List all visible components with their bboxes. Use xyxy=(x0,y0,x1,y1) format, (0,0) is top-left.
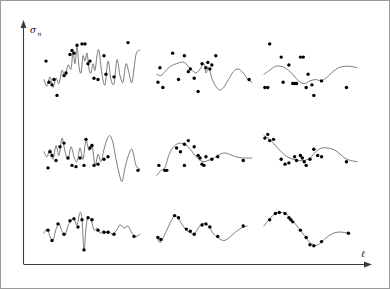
data-point xyxy=(80,42,83,45)
data-point xyxy=(291,220,294,223)
data-point xyxy=(175,146,178,149)
data-point xyxy=(44,59,47,62)
data-point xyxy=(208,67,211,70)
data-point xyxy=(200,223,203,226)
data-point xyxy=(52,78,55,81)
data-point xyxy=(280,158,283,161)
data-point xyxy=(266,86,269,89)
data-point xyxy=(55,94,58,97)
data-point xyxy=(299,228,302,231)
data-point xyxy=(320,240,323,243)
data-point xyxy=(281,81,284,84)
data-point xyxy=(308,158,311,161)
data-point xyxy=(303,160,306,163)
data-point xyxy=(208,225,211,228)
data-point xyxy=(214,54,217,57)
data-point xyxy=(46,166,49,169)
data-point xyxy=(283,212,286,215)
data-point xyxy=(84,138,87,141)
data-point xyxy=(68,53,71,56)
data-point xyxy=(293,155,296,158)
data-point xyxy=(90,218,93,221)
data-point xyxy=(171,51,174,54)
data-point xyxy=(185,227,188,230)
data-point xyxy=(266,133,269,136)
data-point xyxy=(268,139,271,142)
data-point xyxy=(96,162,99,165)
data-point xyxy=(112,75,115,78)
data-point xyxy=(165,169,168,172)
data-point xyxy=(304,164,307,167)
data-point xyxy=(62,233,65,236)
data-point xyxy=(193,145,196,148)
data-point xyxy=(82,164,85,167)
data-point xyxy=(102,158,105,161)
data-point xyxy=(247,78,250,81)
data-point xyxy=(280,55,283,58)
data-point xyxy=(46,228,49,231)
data-point xyxy=(320,155,323,158)
data-point xyxy=(304,86,307,89)
figure-border xyxy=(1,1,390,289)
data-point xyxy=(102,231,105,234)
data-point xyxy=(210,63,213,66)
data-point xyxy=(301,156,304,159)
data-point xyxy=(216,235,219,238)
data-point xyxy=(179,150,182,153)
data-point xyxy=(268,218,271,221)
data-point xyxy=(268,42,271,45)
data-point xyxy=(210,158,213,161)
data-point xyxy=(242,159,245,162)
data-point xyxy=(106,231,109,234)
data-point xyxy=(92,77,95,80)
data-point xyxy=(312,244,315,247)
data-point xyxy=(345,86,348,89)
data-point xyxy=(204,66,207,69)
data-point xyxy=(82,248,85,251)
data-point xyxy=(106,155,109,158)
data-point xyxy=(278,211,281,214)
data-point xyxy=(283,162,286,165)
data-point xyxy=(274,212,277,215)
data-point xyxy=(102,54,105,57)
data-point xyxy=(242,224,245,227)
data-point xyxy=(50,83,53,86)
data-point xyxy=(47,81,50,84)
data-point xyxy=(158,66,161,69)
data-point xyxy=(161,86,164,89)
data-point xyxy=(312,148,315,151)
data-point xyxy=(308,243,311,246)
data-point xyxy=(56,222,59,225)
data-point xyxy=(74,165,77,168)
data-point xyxy=(90,144,93,147)
data-point xyxy=(177,216,180,219)
data-point xyxy=(48,150,51,153)
data-point xyxy=(86,216,89,219)
data-point xyxy=(96,78,99,81)
data-point xyxy=(80,218,83,221)
data-point xyxy=(96,228,99,231)
data-point xyxy=(66,156,69,159)
data-point xyxy=(92,164,95,167)
y-axis-sublabel: n xyxy=(38,30,42,37)
data-point xyxy=(198,156,201,159)
data-point xyxy=(83,42,86,45)
data-point xyxy=(136,169,139,172)
data-point xyxy=(312,94,315,97)
data-point xyxy=(196,90,199,93)
data-point xyxy=(187,139,190,142)
data-point xyxy=(204,155,207,158)
data-point xyxy=(68,219,71,222)
data-point xyxy=(159,238,162,241)
data-point xyxy=(126,41,129,44)
data-point xyxy=(112,233,115,236)
data-point xyxy=(320,79,323,82)
data-point xyxy=(50,239,53,242)
data-point xyxy=(272,138,275,141)
data-point xyxy=(70,164,73,167)
data-point xyxy=(64,71,67,74)
data-point xyxy=(156,236,159,239)
data-point xyxy=(302,55,305,58)
data-point xyxy=(304,236,307,239)
y-axis-label: σ xyxy=(30,25,37,35)
